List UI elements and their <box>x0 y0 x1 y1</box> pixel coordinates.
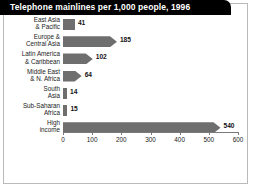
bar-value-label: 102 <box>96 53 107 60</box>
bar-value-label: 64 <box>85 71 92 78</box>
category-label-line: & Caribbean <box>4 58 60 65</box>
bar-container <box>63 36 117 47</box>
title-banner: Telephone mainlines per 1,000 people, 19… <box>0 0 231 15</box>
bar-value-label: 14 <box>70 88 77 95</box>
x-axis-tick-label: 400 <box>174 136 185 143</box>
bar <box>63 88 67 99</box>
x-axis-tick-label: 500 <box>203 136 214 143</box>
category-label-line: Central Asia <box>4 40 60 47</box>
x-axis-tick-label: 200 <box>116 136 127 143</box>
bar <box>63 105 67 116</box>
category-label: Europe &Central Asia <box>4 33 60 47</box>
plot-area: East Asia& Pacific41Europe &Central Asia… <box>4 16 249 141</box>
category-label-line: & Pacific <box>4 23 60 30</box>
category-label-line: East Asia <box>4 16 60 23</box>
bar-value-label: 41 <box>78 19 85 26</box>
category-label-line: & N. Africa <box>4 75 60 82</box>
bar-container <box>63 71 82 82</box>
x-axis: 0100200300400500600 <box>4 132 249 146</box>
x-axis-tick-label: 100 <box>87 136 98 143</box>
x-axis-tick <box>151 132 152 135</box>
x-axis-tick <box>63 132 64 135</box>
x-axis-tick <box>209 132 210 135</box>
bar <box>63 19 75 30</box>
chart-figure: Telephone mainlines per 1,000 people, 19… <box>0 0 253 188</box>
category-label: East Asia& Pacific <box>4 16 60 30</box>
bar-container <box>63 53 93 64</box>
bar-value-label: 185 <box>120 36 131 43</box>
x-axis-tick <box>92 132 93 135</box>
category-label-line: South <box>4 85 60 92</box>
category-label-line: Sub-Saharan <box>4 102 60 109</box>
category-label: Latin America& Caribbean <box>4 50 60 64</box>
bar-container <box>63 19 75 30</box>
category-label-line: Asia <box>4 92 60 99</box>
chart-bar-row: East Asia& Pacific41 <box>4 17 249 32</box>
chart-bar-row: Sub-SaharanAfrica15 <box>4 103 249 118</box>
bar-container <box>63 105 67 116</box>
x-axis-tick-label: 600 <box>233 136 244 143</box>
chart-bar-row: SouthAsia14 <box>4 86 249 101</box>
category-label-line: Middle East <box>4 68 60 75</box>
category-label: Middle East& N. Africa <box>4 68 60 82</box>
category-label-line: Europe & <box>4 33 60 40</box>
chart-bar-row: Europe &Central Asia185 <box>4 34 249 49</box>
x-axis-tick <box>238 132 239 135</box>
chart-title: Telephone mainlines per 1,000 people, 19… <box>10 2 190 12</box>
bar-container <box>63 88 67 99</box>
bar-value-label: 540 <box>224 122 235 129</box>
chart-bar-row: Middle East& N. Africa64 <box>4 69 249 84</box>
x-axis-tick <box>121 132 122 135</box>
x-axis-tick <box>180 132 181 135</box>
chart-bar-row: Latin America& Caribbean102 <box>4 51 249 66</box>
x-axis-tick-label: 0 <box>61 136 65 143</box>
bar <box>63 53 93 64</box>
bar-value-label: 15 <box>70 105 77 112</box>
category-label: Sub-SaharanAfrica <box>4 102 60 116</box>
category-label: SouthAsia <box>4 85 60 99</box>
category-label-line: Africa <box>4 109 60 116</box>
category-label-line: High <box>4 119 60 126</box>
category-label-line: Latin America <box>4 50 60 57</box>
bar <box>63 71 82 82</box>
bar <box>63 36 117 47</box>
x-axis-tick-label: 300 <box>145 136 156 143</box>
